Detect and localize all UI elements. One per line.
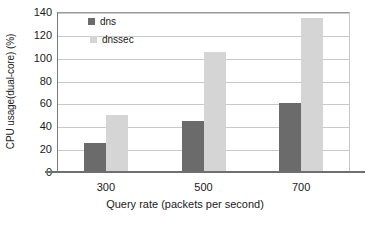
y-tick-label: 20: [22, 143, 52, 155]
y-tick-label: 140: [22, 6, 52, 18]
x-axis-line: [45, 171, 365, 173]
bar-chart: CPU usage(dual-core) (%) 020406080100120…: [0, 0, 370, 225]
legend-swatch-dnssec-icon: [90, 36, 97, 43]
x-tick-label: 300: [76, 181, 136, 193]
bar-dnssec-500: [204, 52, 226, 172]
x-tick-label: 700: [271, 181, 331, 193]
x-axis-title: Query rate (packets per second): [0, 198, 370, 210]
legend-swatch-dns-icon: [88, 18, 95, 25]
bar-dns-500: [182, 121, 204, 172]
legend-item-dnssec: dnssec: [90, 32, 134, 46]
x-tick-label: 500: [174, 181, 234, 193]
legend-item-dns: dns: [88, 14, 134, 28]
y-tick-label: 40: [22, 120, 52, 132]
y-axis-tick-labels: 020406080100120140: [22, 12, 52, 172]
y-tick-label: 80: [22, 75, 52, 87]
y-tick-label: 120: [22, 29, 52, 41]
y-tick-label: 100: [22, 52, 52, 64]
y-axis-title: CPU usage(dual-core) (%): [5, 12, 16, 172]
legend-label-dnssec: dnssec: [102, 34, 134, 45]
x-axis-tick-labels: 300500700: [57, 181, 350, 197]
y-tick-label: 60: [22, 97, 52, 109]
bar-dns-700: [279, 103, 301, 172]
legend: dns dnssec: [88, 14, 134, 50]
bar-dnssec-700: [301, 18, 323, 172]
bar-dns-300: [84, 143, 106, 172]
bar-dnssec-300: [106, 115, 128, 172]
legend-label-dns: dns: [100, 16, 116, 27]
